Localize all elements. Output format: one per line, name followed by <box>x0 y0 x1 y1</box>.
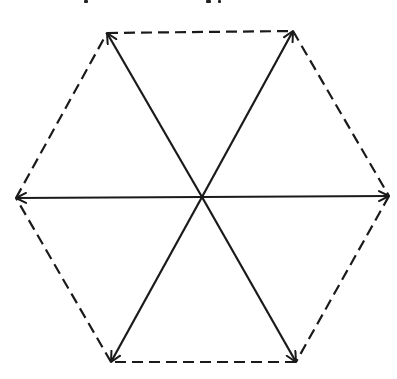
edge-left-to-top-left <box>16 33 107 198</box>
edge-top-right-to-right <box>293 31 389 196</box>
edge-right-to-bottom-right <box>296 196 389 362</box>
edge-top-left-to-top-right <box>107 31 293 33</box>
hexagon-diagram <box>0 0 397 379</box>
arrow-top-left <box>107 33 202 197</box>
arrow-bottom-left <box>111 197 202 362</box>
radial-arrows <box>16 31 389 362</box>
arrow-top-right <box>202 31 293 197</box>
arrow-right <box>202 196 389 197</box>
arrow-left <box>16 197 202 198</box>
arrow-bottom-right <box>202 197 296 362</box>
edge-bottom-left-to-left <box>16 198 111 362</box>
